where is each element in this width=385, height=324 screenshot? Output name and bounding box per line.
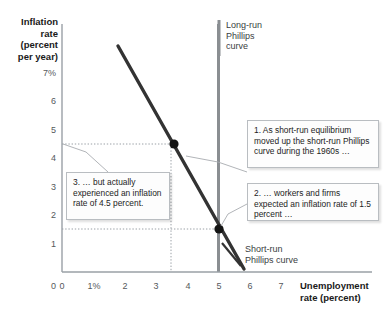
- short-run-curve-label: Short-run Phillips curve: [245, 244, 325, 265]
- leader-line-callout-1: [186, 156, 247, 172]
- chart-figure: Inflation rate (percent per year) Unempl…: [0, 0, 385, 324]
- y-tick-2: 2: [34, 210, 56, 220]
- x-tick-7: 7: [269, 281, 293, 291]
- long-run-curve-label-line1: Long-run: [226, 20, 286, 31]
- callout-2: 2. … workers and firms expected an infla…: [247, 183, 379, 221]
- x-tick-2: 2: [113, 281, 137, 291]
- x-tick-3: 3: [144, 281, 168, 291]
- x-tick-1: 1%: [82, 281, 106, 291]
- x-tick-0: 0: [50, 281, 74, 291]
- y-tick-4: 4: [34, 153, 56, 163]
- y-tick-6: 6: [34, 96, 56, 106]
- x-axis-title: Unemployment rate (percent): [300, 280, 382, 303]
- x-tick-4: 4: [176, 281, 200, 291]
- y-tick-1: 1: [34, 239, 56, 249]
- y-tick-7: 7%: [34, 68, 56, 78]
- long-run-curve-label-line2: Phillips: [226, 31, 286, 42]
- equilibrium-point-lower: [214, 224, 223, 233]
- long-run-curve-label: Long-run Phillips curve: [226, 20, 286, 52]
- y-axis-title: Inflation rate (percent per year): [6, 16, 58, 62]
- callout-3: 3. … but actually experienced an inflati…: [66, 172, 170, 220]
- short-run-phillips-curve: [118, 46, 244, 269]
- y-tick-5: 5: [34, 125, 56, 135]
- equilibrium-point-upper: [169, 139, 178, 148]
- y-tick-3: 3: [34, 182, 56, 192]
- short-run-curve-label-line2: Phillips curve: [245, 255, 325, 266]
- long-run-curve-label-line3: curve: [226, 41, 286, 52]
- short-run-curve-label-line1: Short-run: [245, 244, 325, 255]
- x-tick-5: 5: [207, 281, 231, 291]
- leader-line-callout-3: [63, 144, 108, 172]
- callout-1: 1. As short-run equilibrium moved up the…: [247, 120, 379, 168]
- x-tick-6: 6: [238, 281, 262, 291]
- leader-line-callout-2: [221, 204, 247, 226]
